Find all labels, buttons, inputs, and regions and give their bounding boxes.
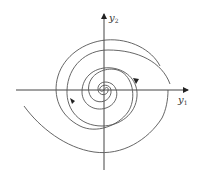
spiral-arm-b	[24, 40, 168, 153]
trajectory-arrow-left	[70, 98, 75, 104]
y2-axis-label: y2	[109, 13, 118, 24]
y1-axis-label: y1	[178, 95, 187, 106]
spiral-arm-a	[67, 50, 170, 126]
phase-portrait	[0, 0, 202, 177]
